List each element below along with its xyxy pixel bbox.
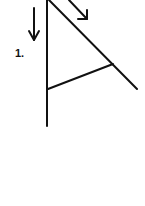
- step-label: 1.: [15, 48, 24, 59]
- diagonal-line: [49, 0, 137, 89]
- crossbar-line: [48, 64, 113, 89]
- diagonal-arrow-icon: [69, 0, 87, 19]
- diagram-canvas: [0, 0, 145, 206]
- down-arrow-icon: [29, 8, 39, 40]
